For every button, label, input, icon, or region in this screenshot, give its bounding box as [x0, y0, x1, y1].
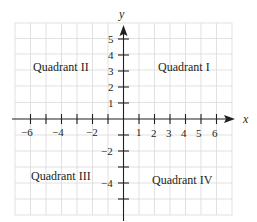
- y-tick-label: −2: [101, 145, 113, 157]
- y-axis-label: y: [118, 7, 125, 21]
- x-tick-label: −2: [86, 126, 98, 138]
- x-tick-label: 1: [136, 126, 142, 138]
- x-axis-label: x: [242, 112, 249, 126]
- x-tick-label: 5: [196, 127, 202, 139]
- x-tick-label: 6: [212, 127, 218, 139]
- y-tick-label: 1: [108, 97, 114, 109]
- y-tick-label: −4: [101, 177, 113, 189]
- coordinate-plane: x y −6 −4 −2 1 2 3 4 5 6 5 4 3 2 1 −2 −4…: [0, 0, 257, 222]
- y-tick-label: 5: [108, 33, 114, 45]
- x-tick-label: 3: [166, 127, 172, 139]
- x-tick-label: 2: [151, 127, 157, 139]
- y-tick-label: 2: [108, 81, 114, 93]
- quadrant-3-label: Quadrant III: [31, 169, 91, 183]
- y-tick-label: 3: [108, 65, 114, 77]
- quadrant-1-label: Quadrant I: [158, 60, 210, 74]
- quadrant-4-label: Quadrant IV: [152, 173, 213, 187]
- x-tick-label: −4: [52, 126, 64, 138]
- y-tick-label: 4: [108, 49, 114, 61]
- x-tick-label: −6: [21, 126, 33, 138]
- quadrant-2-label: Quadrant II: [33, 60, 89, 74]
- x-tick-label: 4: [181, 127, 187, 139]
